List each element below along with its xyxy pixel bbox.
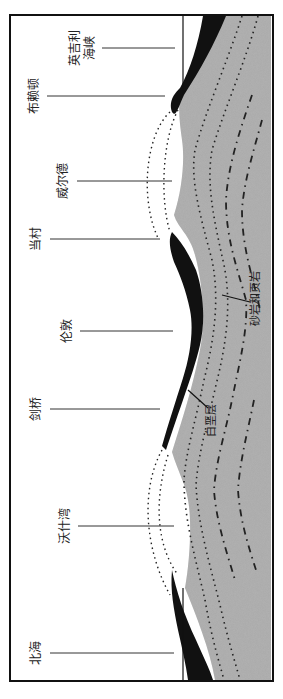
label-beihai: 北海 [28, 641, 43, 665]
label-sandstone-shale: 砂岩和页岩 [248, 271, 262, 326]
label-chalk: 白垩层 [204, 404, 218, 437]
label-yingjili-haixia-line1: 英吉利 [68, 30, 82, 66]
label-weierde: 威尔德 [55, 163, 70, 199]
geological-cross-section: 英吉利 海峡 布赖顿 威尔德 当村 伦敦 剑桥 沃什湾 北海 砂岩和页岩 白垩层 [0, 0, 283, 699]
label-lundun: 伦敦 [59, 319, 74, 343]
label-woshiwan: 沃什湾 [57, 508, 72, 544]
label-buladun: 布赖顿 [27, 78, 41, 114]
label-yingjili-haixia-line2: 海峡 [82, 36, 97, 60]
label-jianqiao: 剑桥 [28, 397, 43, 421]
label-dangcun: 当村 [29, 227, 43, 251]
